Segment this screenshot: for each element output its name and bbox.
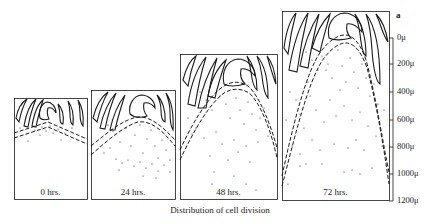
dashed-boundary-0hrs xyxy=(14,122,87,144)
panel-frame-24hrs xyxy=(92,91,176,200)
panel-label-24hrs: 24 hrs. xyxy=(91,187,175,197)
axis-tick-0: 0μ xyxy=(397,32,406,42)
panel-label-48hrs: 48 hrs. xyxy=(180,187,277,197)
axis-tick-800: 800μ xyxy=(397,141,414,151)
leaf-primordia-72hrs xyxy=(284,13,388,84)
leaf-primordia-24hrs xyxy=(93,92,173,130)
dots-48hrs xyxy=(187,91,268,190)
figure-caption: Distribution of cell division xyxy=(0,205,440,215)
dashed-boundary-24hrs xyxy=(91,117,175,155)
axis-tick-1000: 1000μ xyxy=(397,168,419,178)
dots-72hrs xyxy=(285,49,384,184)
cell-division-figure: a 0μ 200μ 400μ 600μ 800μ 1000μ 1200μ 0 h… xyxy=(0,0,440,224)
axis-tick-600: 600μ xyxy=(397,114,414,124)
axis-tick-200: 200μ xyxy=(397,58,414,68)
figure-letter: a xyxy=(396,10,401,20)
dashed-boundary-48hrs xyxy=(180,82,277,160)
panel-label-0hrs: 0 hrs. xyxy=(14,187,87,197)
panel-label-72hrs: 72 hrs. xyxy=(282,187,389,197)
axis-tick-400: 400μ xyxy=(397,86,414,96)
axis-tick-1200: 1200μ xyxy=(397,195,419,205)
leaf-primordia-48hrs xyxy=(183,56,276,108)
dots-24hrs xyxy=(103,124,170,178)
panel-frame-0hrs xyxy=(15,99,88,200)
